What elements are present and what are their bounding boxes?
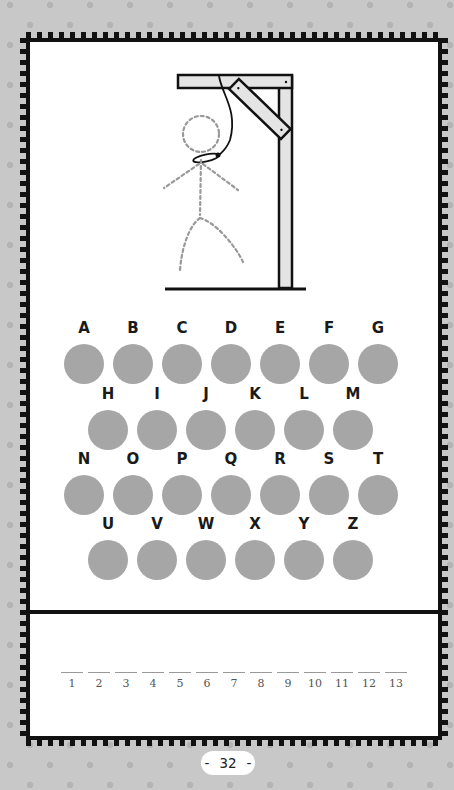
answer-blank-1[interactable]: 1 bbox=[61, 672, 83, 690]
answer-blank-9[interactable]: 9 bbox=[277, 672, 299, 690]
blank-number: 2 bbox=[88, 677, 110, 690]
letter-circle[interactable] bbox=[358, 344, 398, 384]
answer-blanks: 1 2 3 4 5 6 7 8 9 10 11 12 13 bbox=[61, 672, 411, 702]
letter-button-c[interactable]: C bbox=[162, 318, 202, 384]
letter-button-q[interactable]: Q bbox=[211, 449, 251, 515]
letter-circle[interactable] bbox=[162, 475, 202, 515]
letter-button-x[interactable]: X bbox=[235, 514, 275, 580]
letter-circle[interactable] bbox=[235, 410, 275, 450]
blank-number: 10 bbox=[304, 677, 326, 690]
answer-blank-7[interactable]: 7 bbox=[223, 672, 245, 690]
letter-label: R bbox=[260, 449, 300, 469]
blank-line bbox=[88, 672, 110, 673]
letter-circle[interactable] bbox=[137, 410, 177, 450]
letter-button-w[interactable]: W bbox=[186, 514, 226, 580]
blank-number: 7 bbox=[223, 677, 245, 690]
answer-blank-2[interactable]: 2 bbox=[88, 672, 110, 690]
blank-line bbox=[142, 672, 164, 673]
letter-label: L bbox=[284, 384, 324, 404]
letter-label: I bbox=[137, 384, 177, 404]
letter-button-u[interactable]: U bbox=[88, 514, 128, 580]
letter-button-m[interactable]: M bbox=[333, 384, 373, 450]
letter-circle[interactable] bbox=[186, 540, 226, 580]
letter-button-v[interactable]: V bbox=[137, 514, 177, 580]
letter-circle[interactable] bbox=[235, 540, 275, 580]
figure-right-leg bbox=[200, 218, 243, 262]
answer-blank-3[interactable]: 3 bbox=[115, 672, 137, 690]
letter-label: A bbox=[64, 318, 104, 338]
letter-button-d[interactable]: D bbox=[211, 318, 251, 384]
letter-button-j[interactable]: J bbox=[186, 384, 226, 450]
letter-circle[interactable] bbox=[260, 344, 300, 384]
letter-circle[interactable] bbox=[211, 475, 251, 515]
letter-circle[interactable] bbox=[211, 344, 251, 384]
blank-line bbox=[169, 672, 191, 673]
letter-circle[interactable] bbox=[88, 410, 128, 450]
letter-button-i[interactable]: I bbox=[137, 384, 177, 450]
letter-button-b[interactable]: B bbox=[113, 318, 153, 384]
letter-label: Q bbox=[211, 449, 251, 469]
blank-number: 1 bbox=[61, 677, 83, 690]
letter-circle[interactable] bbox=[333, 410, 373, 450]
letter-button-p[interactable]: P bbox=[162, 449, 202, 515]
blank-line bbox=[223, 672, 245, 673]
letter-label: V bbox=[137, 514, 177, 534]
answer-blank-12[interactable]: 12 bbox=[358, 672, 380, 690]
letter-button-a[interactable]: A bbox=[64, 318, 104, 384]
answer-blank-10[interactable]: 10 bbox=[304, 672, 326, 690]
blank-line bbox=[115, 672, 137, 673]
gallows-post bbox=[279, 76, 292, 288]
letter-button-n[interactable]: N bbox=[64, 449, 104, 515]
letter-circle[interactable] bbox=[64, 475, 104, 515]
letter-button-g[interactable]: G bbox=[358, 318, 398, 384]
letter-circle[interactable] bbox=[309, 344, 349, 384]
letter-circle[interactable] bbox=[64, 344, 104, 384]
letter-label: E bbox=[260, 318, 300, 338]
answer-blank-13[interactable]: 13 bbox=[385, 672, 407, 690]
letter-circle[interactable] bbox=[137, 540, 177, 580]
blank-number: 3 bbox=[115, 677, 137, 690]
letter-button-f[interactable]: F bbox=[309, 318, 349, 384]
answer-blank-11[interactable]: 11 bbox=[331, 672, 353, 690]
letter-button-y[interactable]: Y bbox=[284, 514, 324, 580]
blank-number: 13 bbox=[385, 677, 407, 690]
letter-label: G bbox=[358, 318, 398, 338]
letter-button-s[interactable]: S bbox=[309, 449, 349, 515]
blank-line bbox=[358, 672, 380, 673]
blank-number: 6 bbox=[196, 677, 218, 690]
answer-blank-4[interactable]: 4 bbox=[142, 672, 164, 690]
letter-circle[interactable] bbox=[358, 475, 398, 515]
letter-circle[interactable] bbox=[162, 344, 202, 384]
letter-circle[interactable] bbox=[284, 410, 324, 450]
letter-button-r[interactable]: R bbox=[260, 449, 300, 515]
answer-blank-8[interactable]: 8 bbox=[250, 672, 272, 690]
letter-circle[interactable] bbox=[333, 540, 373, 580]
letter-button-o[interactable]: O bbox=[113, 449, 153, 515]
letter-circle[interactable] bbox=[88, 540, 128, 580]
letter-button-k[interactable]: K bbox=[235, 384, 275, 450]
letter-button-t[interactable]: T bbox=[358, 449, 398, 515]
letter-button-h[interactable]: H bbox=[88, 384, 128, 450]
noose-loop bbox=[193, 152, 220, 164]
letter-circle[interactable] bbox=[260, 475, 300, 515]
blank-number: 12 bbox=[358, 677, 380, 690]
letter-label: Z bbox=[333, 514, 373, 534]
letter-circle[interactable] bbox=[186, 410, 226, 450]
letter-label: D bbox=[211, 318, 251, 338]
letter-circle[interactable] bbox=[284, 540, 324, 580]
bolt-icon bbox=[285, 81, 287, 83]
letter-circle[interactable] bbox=[113, 475, 153, 515]
letter-label: S bbox=[309, 449, 349, 469]
letter-button-z[interactable]: Z bbox=[333, 514, 373, 580]
letter-button-l[interactable]: L bbox=[284, 384, 324, 450]
answer-blank-5[interactable]: 5 bbox=[169, 672, 191, 690]
answer-blank-6[interactable]: 6 bbox=[196, 672, 218, 690]
blank-line bbox=[277, 672, 299, 673]
figure-right-arm bbox=[203, 164, 238, 190]
letter-button-e[interactable]: E bbox=[260, 318, 300, 384]
letter-circle[interactable] bbox=[113, 344, 153, 384]
letter-label: C bbox=[162, 318, 202, 338]
figure-left-arm bbox=[164, 164, 199, 188]
letter-label: N bbox=[64, 449, 104, 469]
letter-circle[interactable] bbox=[309, 475, 349, 515]
